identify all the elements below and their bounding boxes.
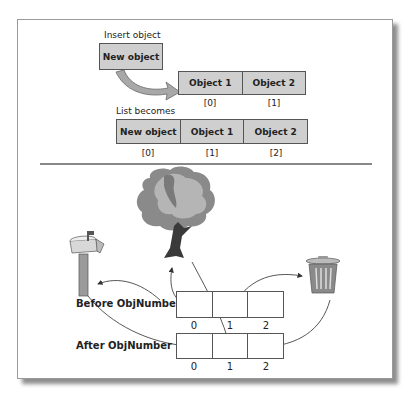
after-index: 2 <box>248 361 284 372</box>
mailbox-icon <box>70 231 104 296</box>
before-index: 0 <box>176 320 212 331</box>
before-index: 2 <box>248 320 284 331</box>
tree-icon <box>137 166 215 258</box>
after-objnumber-label: After ObjNumber <box>76 340 172 351</box>
before-cell <box>213 292 249 317</box>
before-index: 1 <box>212 320 248 331</box>
after-cell <box>177 334 213 358</box>
after-cell <box>248 334 283 358</box>
before-cell <box>177 292 213 317</box>
before-array <box>176 291 284 318</box>
after-index: 1 <box>212 361 248 372</box>
before-objnumber-label: Before ObjNumber <box>76 298 181 309</box>
before-cell <box>248 292 283 317</box>
after-cell <box>213 334 249 358</box>
after-index: 0 <box>176 361 212 372</box>
after-array <box>176 333 284 359</box>
trash-can-icon <box>306 256 340 293</box>
